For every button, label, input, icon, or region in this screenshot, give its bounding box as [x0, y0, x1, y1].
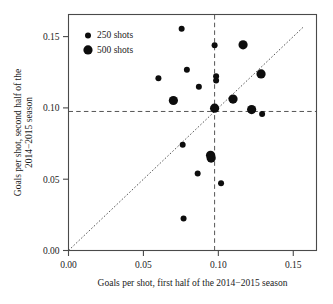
data-point [207, 154, 216, 163]
data-point [196, 84, 202, 90]
x-tick-label: 0.10 [210, 260, 227, 270]
data-point [169, 96, 178, 105]
series-small [155, 26, 265, 222]
data-point [256, 69, 265, 78]
x-tick-label: 0.05 [135, 260, 152, 270]
data-point [247, 105, 256, 114]
y-tick-label: 0.00 [43, 246, 60, 256]
x-axis: 0.000.050.100.15 [60, 251, 302, 270]
y-tick-label: 0.15 [43, 32, 60, 42]
legend-marker-large [83, 45, 92, 54]
data-point [259, 111, 265, 117]
legend: 250 shots500 shots [83, 30, 133, 55]
x-axis-title: Goals per shot, first half of the 2014−2… [98, 278, 288, 288]
data-point [238, 40, 247, 49]
y-tick-label: 0.05 [43, 175, 60, 185]
data-point [228, 94, 237, 103]
data-point [179, 26, 185, 32]
data-point [184, 67, 190, 73]
x-tick-label: 0.15 [285, 260, 302, 270]
legend-label-small: 250 shots [97, 30, 133, 40]
legend-label-large: 500 shots [97, 45, 133, 55]
data-point [218, 180, 224, 186]
y-tick-label: 0.10 [43, 103, 60, 113]
data-point [210, 104, 219, 113]
y-axis: 0.000.050.100.15 [43, 32, 69, 256]
scatter-plot-figure: 0.000.050.100.15Goals per shot, first ha… [0, 0, 333, 304]
y-axis-title-line2: 2014−2015 season [24, 97, 34, 168]
y-axis-title-line1: Goals per shot, second half of the [13, 69, 23, 196]
data-point [212, 42, 218, 48]
data-point [195, 171, 201, 177]
data-point [181, 216, 187, 222]
data-point [155, 75, 161, 81]
x-tick-label: 0.00 [60, 260, 77, 270]
data-point [213, 78, 219, 84]
data-point [180, 142, 186, 148]
scatter-plot-canvas: 0.000.050.100.15Goals per shot, first ha… [0, 0, 333, 304]
legend-marker-small [85, 32, 91, 38]
